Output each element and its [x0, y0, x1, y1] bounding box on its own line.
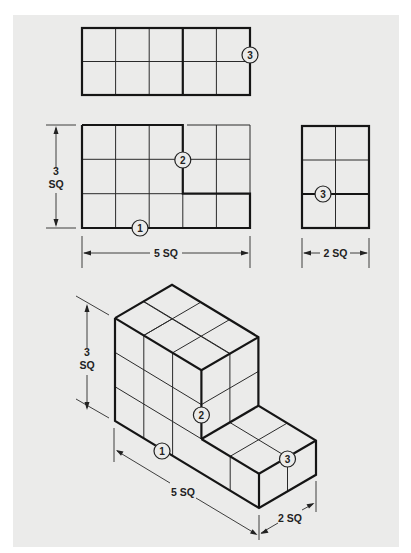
callout-2-iso: 2 [193, 407, 209, 423]
iso-length-dimension: 5 SQ [114, 428, 259, 540]
callout-1-front: 1 [132, 220, 148, 236]
technical-drawing: 3 2 1 3 S [0, 0, 411, 553]
isometric-view: 2 1 3 3 SQ 5 SQ [76, 285, 316, 540]
svg-text:3: 3 [285, 454, 291, 465]
front-height-dimension: 3 SQ [46, 125, 76, 228]
svg-text:2: 2 [180, 155, 186, 166]
svg-text:5 SQ: 5 SQ [171, 486, 195, 498]
svg-text:3: 3 [84, 346, 90, 358]
side-view: 3 2 SQ [302, 126, 369, 268]
svg-text:2 SQ: 2 SQ [278, 512, 302, 524]
svg-text:5 SQ: 5 SQ [154, 247, 178, 259]
side-width-dimension: 2 SQ [302, 238, 369, 268]
svg-text:2 SQ: 2 SQ [324, 247, 348, 259]
iso-height-dimension: 3 SQ [76, 296, 109, 418]
top-view: 3 [82, 28, 258, 95]
callout-1-iso: 1 [154, 443, 170, 459]
callout-3-top: 3 [242, 47, 258, 63]
svg-text:3: 3 [247, 50, 253, 61]
front-width-dimension: 5 SQ [82, 236, 250, 268]
callout-3-side: 3 [315, 186, 331, 202]
svg-text:1: 1 [137, 223, 143, 234]
svg-text:3: 3 [320, 189, 326, 200]
iso-depth-dimension: 2 SQ [261, 481, 317, 534]
svg-text:SQ: SQ [79, 359, 94, 371]
svg-text:2: 2 [199, 410, 205, 421]
svg-text:1: 1 [159, 446, 165, 457]
callout-3-iso: 3 [280, 451, 296, 467]
callout-2-front: 2 [175, 152, 191, 168]
front-view: 2 1 3 SQ 5 SQ [46, 125, 250, 268]
svg-text:SQ: SQ [48, 178, 63, 190]
svg-text:3: 3 [53, 165, 59, 177]
